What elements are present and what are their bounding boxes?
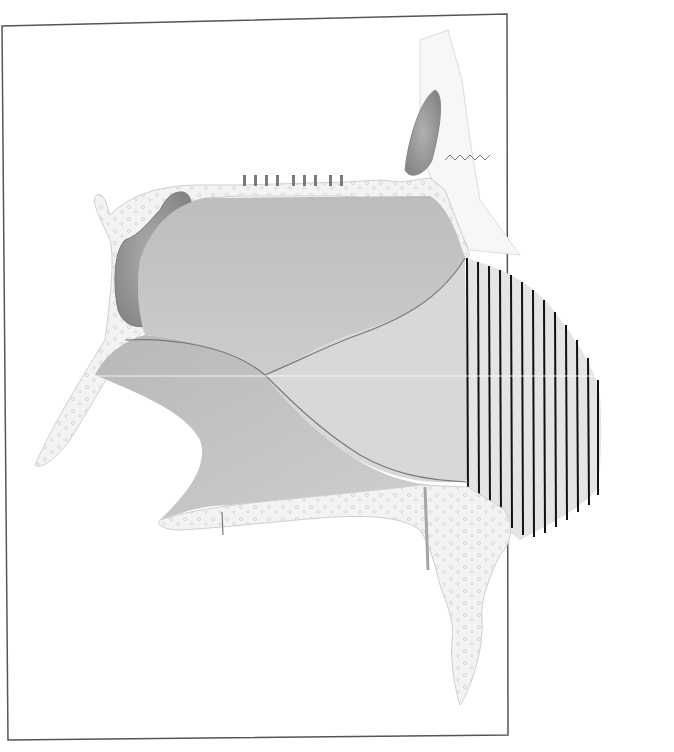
figure-container — [0, 0, 674, 752]
palate-and-maxillary-crest — [159, 485, 511, 705]
nasal-septum-illustration — [0, 0, 674, 752]
